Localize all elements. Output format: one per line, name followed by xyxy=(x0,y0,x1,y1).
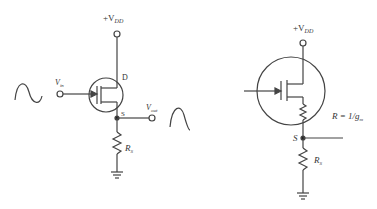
vout-label: Vout xyxy=(146,103,158,113)
vin-terminal xyxy=(57,91,63,97)
left-circuit xyxy=(15,31,190,178)
right-circuit xyxy=(244,40,343,199)
vdd-terminal xyxy=(114,31,120,37)
ground-icon-right xyxy=(297,193,309,199)
source-follower-diagram: +VDD D S Vin Vout RS +VDD R = 1/gm S RS xyxy=(0,0,377,209)
internal-resistor-label: R = 1/gm xyxy=(331,111,364,122)
drain-label: D xyxy=(122,73,128,82)
vdd-label: +VDD xyxy=(103,13,124,24)
vout-terminal xyxy=(149,115,155,121)
gate-arrow-icon xyxy=(91,91,97,97)
source-node-label: S xyxy=(293,133,298,143)
ground-icon xyxy=(111,172,123,178)
vdd-terminal-right xyxy=(300,40,306,46)
input-sine-wave-icon xyxy=(15,84,42,103)
internal-resistor xyxy=(300,104,306,120)
vin-label: Vin xyxy=(55,78,64,88)
source-resistor xyxy=(113,132,121,154)
rs-label: RS xyxy=(124,143,134,154)
output-sine-wave-icon xyxy=(170,108,190,130)
source-label: S xyxy=(121,110,125,118)
vdd-label-right: +VDD xyxy=(293,23,314,34)
source-resistor-right xyxy=(299,148,307,170)
gate-arrow-icon-right xyxy=(275,88,281,94)
rs-label-right: RS xyxy=(313,155,323,166)
